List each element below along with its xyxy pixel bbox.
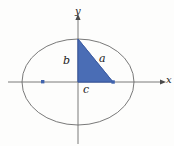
y-axis-label: y: [75, 6, 81, 16]
label-c: c: [83, 84, 89, 95]
focus-left-point: [41, 80, 44, 83]
focus-right-point: [111, 80, 114, 83]
ellipse-focus-figure: y x b a c: [0, 0, 174, 146]
figure-canvas: [0, 0, 174, 146]
label-b: b: [63, 55, 70, 66]
label-a: a: [99, 53, 106, 64]
x-axis-label: x: [166, 75, 172, 85]
